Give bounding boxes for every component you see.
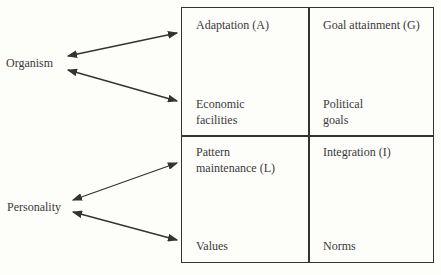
arrow-organism-adaptation [68,33,177,56]
integration-bottom: Norms [323,238,356,254]
goal-attainment-title: Goal attainment (G) [323,17,420,33]
pattern-maintenance-title: Pattern maintenance (L) [196,144,275,176]
arrow-personality-pattern [73,163,177,200]
goal-attainment-bottom: Political goals [323,96,363,128]
organism-label: Organism [6,55,53,71]
agil-grid: Adaptation (A) Economic facilities Goal … [181,7,434,263]
adaptation-bottom: Economic facilities [196,96,245,128]
personality-label: Personality [7,199,61,215]
arrow-personality-values [73,212,177,240]
pattern-maintenance-bottom: Values [196,238,228,254]
arrow-organism-economic [68,70,177,101]
horizontal-divider [182,135,433,137]
integration-title: Integration (I) [323,144,391,160]
adaptation-title: Adaptation (A) [196,17,269,33]
